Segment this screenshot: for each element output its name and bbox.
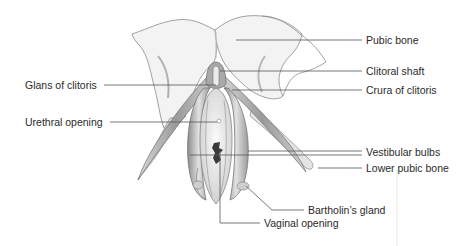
label-crura-of-clitoris: Crura of clitoris [366, 84, 437, 96]
label-vaginal-opening: Vaginal opening [264, 217, 339, 229]
urethral-opening-shape [217, 119, 221, 123]
anatomy-figure: Pubic bone Clitoral shaft Glans of clito… [0, 0, 464, 246]
vestibule-shape [200, 88, 232, 204]
label-vestibular-bulbs: Vestibular bulbs [366, 146, 440, 158]
label-clitoral-shaft: Clitoral shaft [366, 65, 424, 77]
label-glans-of-clitoris: Glans of clitoris [25, 79, 97, 91]
label-bartholins-gland: Bartholin’s gland [308, 204, 385, 216]
leader-bartholins-gland [246, 186, 304, 210]
glans-shape [213, 66, 219, 86]
label-urethral-opening: Urethral opening [25, 116, 103, 128]
label-lower-pubic-bone: Lower pubic bone [366, 162, 449, 174]
label-pubic-bone: Pubic bone [366, 34, 419, 46]
